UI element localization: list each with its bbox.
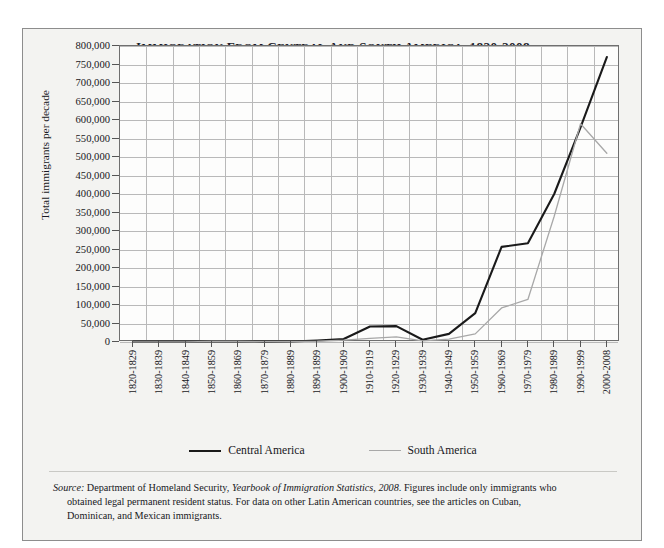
y-axis-tick-label: 200,000 [76,262,110,273]
y-axis-tick-label: 500,000 [76,151,110,162]
x-axis-tick-mark [211,341,212,347]
x-axis-tick-label: 1890-1899 [311,350,322,394]
note-divider [49,471,617,472]
y-axis-tick-mark [112,156,119,157]
y-axis-tick-label: 750,000 [76,58,110,69]
chart-legend: Central AmericaSouth America [23,444,643,457]
legend-item-south-america[interactable]: South America [369,444,477,457]
y-axis-tick-label: 150,000 [76,280,110,291]
x-axis-tick-mark [369,341,370,347]
x-axis-tick-mark [422,341,423,347]
x-axis-tick-label: 1820-1829 [127,350,138,394]
x-axis-tick-mark [185,341,186,347]
x-axis-tick-label: 1850-1859 [206,350,217,394]
x-axis-tick-label: 1960-1969 [495,350,506,394]
y-axis-tick-label: 300,000 [76,225,110,236]
y-axis: 800,000750,000700,000650,000600,000550,0… [23,29,119,341]
x-axis-tick-mark [237,341,238,347]
legend-label: Central America [228,444,304,457]
y-axis-tick-label: 650,000 [76,95,110,106]
y-axis-tick-label: 450,000 [76,169,110,180]
x-axis-tick-mark [527,341,528,347]
source-text-1: Department of Homeland Security, [84,482,232,493]
y-axis-tick-label: 400,000 [76,188,110,199]
x-axis-tick-label: 1900-1909 [337,350,348,394]
x-axis-tick-label: 1920-1929 [390,350,401,394]
x-axis-tick-label: 1860-1869 [232,350,243,394]
y-axis-tick-mark [112,249,119,250]
y-axis-tick-label: 100,000 [76,299,110,310]
source-note: Source: Department of Homeland Security,… [53,481,613,524]
x-axis-tick-mark [132,341,133,347]
x-axis-tick-mark [501,341,502,347]
x-axis-tick-label: 1870-1879 [258,350,269,394]
y-axis-tick-mark [112,212,119,213]
y-axis-tick-label: 50,000 [81,317,110,328]
y-axis-tick-mark [112,82,119,83]
x-axis-tick-label: 1980-1989 [548,350,559,394]
y-axis-tick-mark [112,119,119,120]
y-axis-tick-label: 800,000 [76,40,110,51]
y-axis-title: Total immigrants per decade [39,45,51,265]
series-line-south-america [133,124,607,342]
x-axis-tick-label: 1930-1939 [416,350,427,394]
x-axis-tick-mark [553,341,554,347]
x-axis-tick-label: 1950-1959 [469,350,480,394]
y-axis-tick-label: 350,000 [76,206,110,217]
y-axis-tick-label: 0 [105,336,110,347]
y-axis-tick-mark [112,64,119,65]
x-axis-tick-mark [474,341,475,347]
x-axis-tick-mark [158,341,159,347]
x-axis-tick-mark [343,341,344,347]
source-line-2: obtained legal permanent resident status… [53,495,613,509]
legend-swatch-icon [189,450,221,452]
source-publication: Yearbook of Immigration Statistics, 2008 [232,482,399,493]
x-axis: 1820-18291830-18391840-18491850-18591860… [119,341,619,421]
y-axis-tick-mark [112,175,119,176]
y-axis-tick-mark [112,304,119,305]
y-axis-tick-mark [112,341,119,342]
x-axis-tick-mark [290,341,291,347]
source-label: Source: [53,482,84,493]
series-lines [120,46,620,342]
source-text-2: . Figures include only immigrants who [399,482,557,493]
series-line-central-america [133,57,607,342]
y-axis-tick-mark [112,45,119,46]
source-line-3: Dominican, and Mexican immigrants. [53,509,613,523]
y-axis-tick-mark [112,138,119,139]
x-axis-tick-mark [316,341,317,347]
x-axis-tick-label: 1830-1839 [153,350,164,394]
y-axis-tick-mark [112,323,119,324]
x-axis-tick-mark [395,341,396,347]
y-axis-tick-label: 550,000 [76,132,110,143]
x-axis-tick-label: 1880-1889 [285,350,296,394]
x-axis-tick-label: 1840-1849 [179,350,190,394]
y-axis-tick-mark [112,267,119,268]
y-axis-tick-mark [112,230,119,231]
y-axis-tick-label: 700,000 [76,77,110,88]
x-axis-tick-mark [580,341,581,347]
x-axis-tick-mark [264,341,265,347]
legend-item-central-america[interactable]: Central America [189,444,304,457]
y-axis-tick-mark [112,193,119,194]
y-axis-tick-label: 250,000 [76,243,110,254]
y-axis-tick-mark [112,286,119,287]
legend-label: South America [408,444,477,457]
y-axis-tick-label: 600,000 [76,114,110,125]
x-axis-tick-mark [448,341,449,347]
x-axis-tick-mark [606,341,607,347]
plot-area [119,45,619,341]
y-axis-tick-mark [112,101,119,102]
chart-figure: IMMIGRATION FROM CENTRAL AND SOUTH AMERI… [22,28,642,541]
x-axis-tick-label: 1910-1919 [364,350,375,394]
x-axis-tick-label: 1940-1949 [442,350,453,394]
legend-swatch-icon [369,450,401,451]
x-axis-tick-label: 2000-2008 [600,350,611,394]
x-axis-tick-label: 1970-1979 [521,350,532,394]
x-axis-tick-label: 1990-1999 [574,350,585,394]
